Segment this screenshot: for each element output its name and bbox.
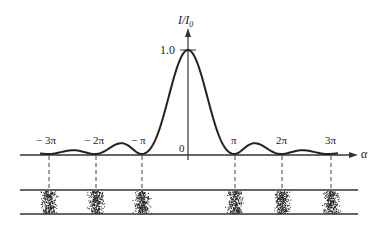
origin-label: 0 (179, 142, 185, 154)
x-axis-label: α (361, 147, 368, 161)
tick-label-negpi: − π (131, 134, 146, 146)
peak-label: 1.0 (160, 43, 175, 57)
x-axis-arrow-icon (349, 152, 358, 158)
y-axis-arrow-icon (185, 28, 191, 37)
tick-label-pi: π (231, 134, 237, 146)
tick-label-neg3pi: − 3π (36, 134, 56, 146)
tick-label-neg2pi: − 2π (84, 134, 104, 146)
diffraction-figure: α I/I0 1.0 0 − 3π − 2π − π π 2π 3π (0, 0, 387, 228)
tick-label-3pi: 3π (325, 134, 337, 146)
y-axis-label: I/I0 (177, 13, 193, 29)
dark-fringes (41, 191, 342, 214)
guide-lines (49, 156, 331, 190)
tick-label-2pi: 2π (276, 134, 288, 146)
